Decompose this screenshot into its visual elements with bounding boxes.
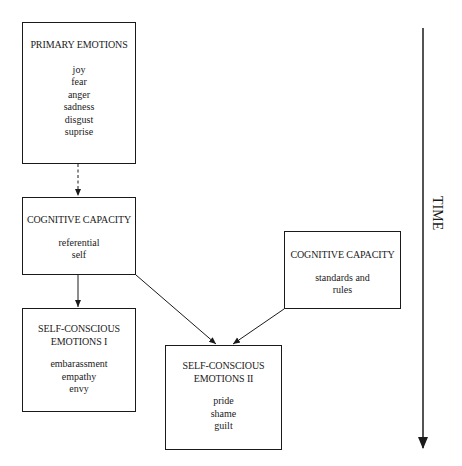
node-items: embarassment empathy envy [23, 358, 135, 396]
item-embarassment: embarassment [23, 358, 135, 371]
node-cognitive-capacity-standards: COGNITIVE CAPACITY standards and rules [284, 231, 401, 309]
node-title: COGNITIVE CAPACITY [19, 214, 139, 227]
node-primary-emotions: PRIMARY EMOTIONS joy fear anger sadness … [22, 22, 136, 164]
item-fear: fear [23, 76, 135, 89]
node-items: joy fear anger sadness disgust suprise [23, 64, 135, 139]
node-title-line-2: EMOTIONS I [23, 336, 135, 349]
diagram-canvas: PRIMARY EMOTIONS joy fear anger sadness … [0, 0, 462, 466]
item-guilt: guilt [166, 420, 281, 433]
item-shame: shame [166, 408, 281, 421]
node-title: COGNITIVE CAPACITY [281, 249, 404, 262]
item-suprise: suprise [23, 126, 135, 139]
item-envy: envy [23, 383, 135, 396]
item-disgust: disgust [23, 114, 135, 127]
item-self: self [23, 249, 135, 262]
edge-cognitive-standards-to-self-conscious-2 [233, 309, 284, 344]
node-items: standards and rules [285, 272, 400, 297]
node-cognitive-capacity-referential: COGNITIVE CAPACITY referential self [22, 197, 136, 275]
node-self-conscious-emotions-2: SELF-CONSCIOUS EMOTIONS II pride shame g… [165, 345, 282, 450]
item-joy: joy [23, 64, 135, 77]
item-referential: referential [23, 237, 135, 250]
item-rules: rules [285, 284, 400, 297]
item-pride: pride [166, 395, 281, 408]
node-title-line-1: SELF-CONSCIOUS [166, 360, 281, 373]
node-title: PRIMARY EMOTIONS [23, 39, 135, 52]
item-sadness: sadness [23, 101, 135, 114]
item-empathy: empathy [23, 371, 135, 384]
item-standards-and: standards and [285, 272, 400, 285]
item-anger: anger [23, 89, 135, 102]
node-title-line-2: EMOTIONS II [166, 373, 281, 386]
node-items: pride shame guilt [166, 395, 281, 433]
edge-cognitive-referential-to-self-conscious-2 [136, 275, 216, 344]
node-self-conscious-emotions-1: SELF-CONSCIOUS EMOTIONS I embarassment e… [22, 308, 136, 412]
time-axis-label: TIME [427, 196, 447, 230]
node-title-line-1: SELF-CONSCIOUS [23, 323, 135, 336]
node-items: referential self [23, 237, 135, 262]
